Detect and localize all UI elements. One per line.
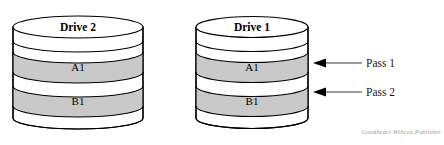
drive-2-band-b1-label: B1 bbox=[72, 95, 85, 107]
pass-2-arrowhead-icon bbox=[313, 88, 326, 97]
drive-2-title: Drive 2 bbox=[60, 21, 96, 33]
pass-1-annotation: Pass 1 bbox=[313, 57, 395, 69]
drive-1-band-a1-label: A1 bbox=[245, 61, 258, 73]
drive-2-cylinder: Drive 2 A1 B1 bbox=[13, 16, 143, 129]
pass-2-label: Pass 2 bbox=[366, 86, 395, 98]
drive-1-band-b1-label: B1 bbox=[246, 95, 259, 107]
drive-1-title: Drive 1 bbox=[234, 21, 270, 33]
raid-striping-diagram: Drive 2 A1 B1 Drive 1 A1 B1 bbox=[0, 0, 444, 145]
drive-2-band-a1-label: A1 bbox=[71, 61, 84, 73]
diagram-canvas: Drive 2 A1 B1 Drive 1 A1 B1 bbox=[0, 0, 444, 145]
drive-1-cylinder: Drive 1 A1 B1 bbox=[196, 17, 308, 129]
pass-2-annotation: Pass 2 bbox=[313, 86, 395, 98]
publisher-credit: Goodheart-Willcox Publisher bbox=[362, 128, 442, 135]
pass-1-arrowhead-icon bbox=[313, 59, 326, 68]
pass-1-label: Pass 1 bbox=[366, 57, 395, 69]
